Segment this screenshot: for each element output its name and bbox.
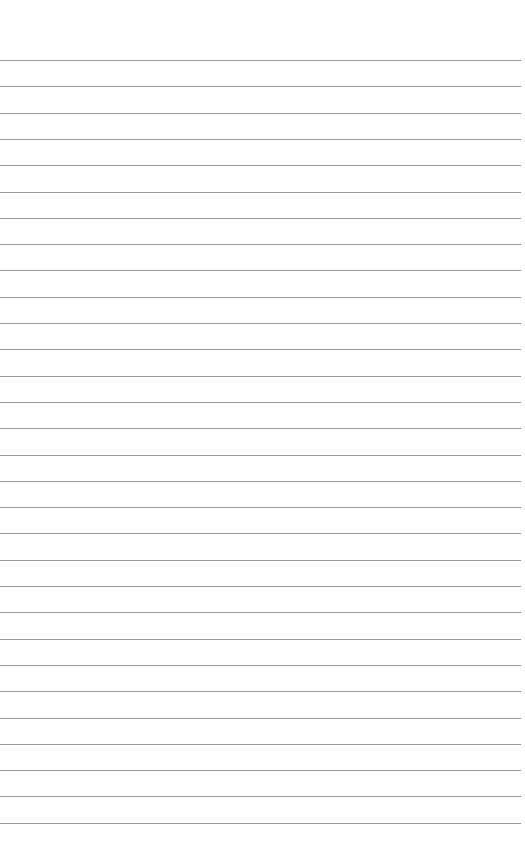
ruled-line — [0, 560, 521, 561]
ruled-line — [0, 139, 521, 140]
ruled-line — [0, 718, 521, 719]
ruled-line — [0, 165, 521, 166]
ruled-line — [0, 60, 521, 61]
ruled-line — [0, 533, 521, 534]
ruled-line — [0, 297, 521, 298]
ruled-line — [0, 455, 521, 456]
ruled-line — [0, 586, 521, 587]
ruled-line — [0, 428, 521, 429]
ruled-line — [0, 244, 521, 245]
ruled-line — [0, 113, 521, 114]
ruled-line — [0, 86, 521, 87]
ruled-line — [0, 376, 521, 377]
ruled-line — [0, 639, 521, 640]
ruled-line — [0, 612, 521, 613]
ruled-line — [0, 218, 521, 219]
ruled-line — [0, 323, 521, 324]
ruled-line — [0, 823, 521, 824]
ruled-line — [0, 192, 521, 193]
lined-paper-page — [0, 0, 525, 866]
ruled-line — [0, 796, 521, 797]
ruled-line — [0, 770, 521, 771]
ruled-line — [0, 507, 521, 508]
ruled-line — [0, 665, 521, 666]
ruled-line — [0, 481, 521, 482]
ruled-line — [0, 270, 521, 271]
ruled-line — [0, 349, 521, 350]
ruled-line — [0, 402, 521, 403]
ruled-line — [0, 691, 521, 692]
ruled-line — [0, 744, 521, 745]
